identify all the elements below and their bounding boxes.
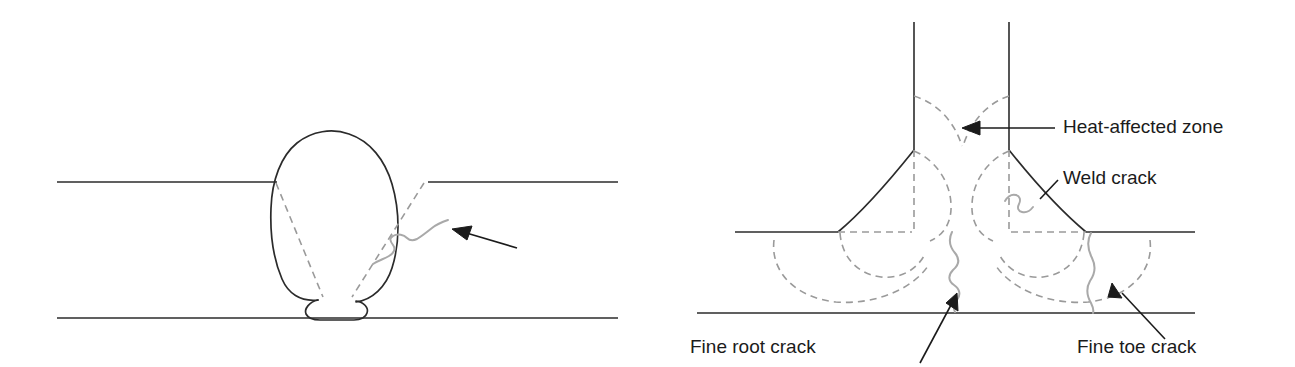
haz-vertical-right-arc: [963, 96, 1009, 146]
fine-toe-crack-leader-line: [1122, 293, 1165, 339]
crack-callout-arrowhead: [452, 226, 472, 240]
haz-vertical-left-arc: [914, 96, 962, 146]
left-diagram-group: [57, 131, 618, 320]
haz-base-left-outer-arc: [774, 240, 928, 302]
weld-diagrams-svg: Heat-affected zone Weld crack Fine root …: [0, 0, 1295, 367]
label-heat-affected-zone: Heat-affected zone: [1063, 116, 1223, 137]
haz-right-weld-outer-lobe: [972, 151, 1009, 241]
right-diagram-group: Heat-affected zone Weld crack Fine root …: [690, 22, 1223, 363]
root-penetration-bead: [306, 300, 368, 320]
crack-callout-arrow-line: [463, 232, 517, 248]
label-fine-root-crack: Fine root crack: [690, 336, 816, 357]
fine-toe-crack-line: [1087, 233, 1094, 313]
weld-metal-crack: [373, 220, 448, 264]
haz-base-left-inner-arc: [840, 233, 925, 277]
fine-toe-crack-arrowhead: [1108, 283, 1122, 298]
figure-root: Heat-affected zone Weld crack Fine root …: [0, 0, 1295, 367]
left-fillet-weld-face: [838, 150, 914, 232]
haz-base-right-inner-arc: [999, 233, 1084, 277]
fine-root-crack-arrowhead: [946, 293, 958, 311]
haz-left-weld-outer-lobe: [914, 151, 951, 241]
haz-base-right-outer-arc: [996, 240, 1150, 302]
heat-affected-zone-arrowhead: [962, 121, 980, 135]
label-fine-toe-crack: Fine toe crack: [1077, 336, 1197, 357]
label-weld-crack: Weld crack: [1063, 167, 1157, 188]
